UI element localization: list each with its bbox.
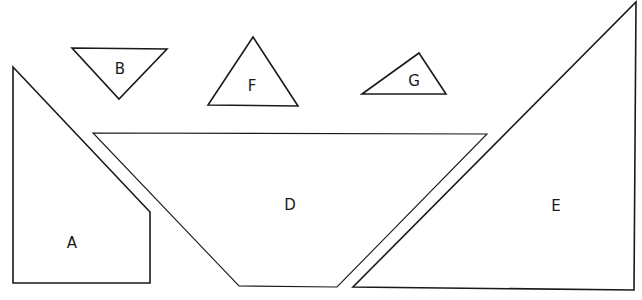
piece-a-shape (13, 67, 150, 283)
piece-g-label: G (408, 72, 420, 90)
piece-f: F (208, 37, 298, 106)
piece-a: A (13, 67, 150, 283)
geometric-pieces-diagram: A B F G D E (0, 0, 642, 300)
piece-e-label: E (551, 197, 560, 215)
piece-f-shape (208, 37, 298, 106)
piece-g-shape (362, 53, 446, 94)
piece-g: G (362, 53, 446, 94)
piece-b: B (72, 48, 167, 99)
piece-d-label: D (284, 196, 296, 214)
piece-f-label: F (248, 77, 257, 95)
piece-a-label: A (67, 234, 78, 252)
piece-b-label: B (115, 60, 125, 78)
